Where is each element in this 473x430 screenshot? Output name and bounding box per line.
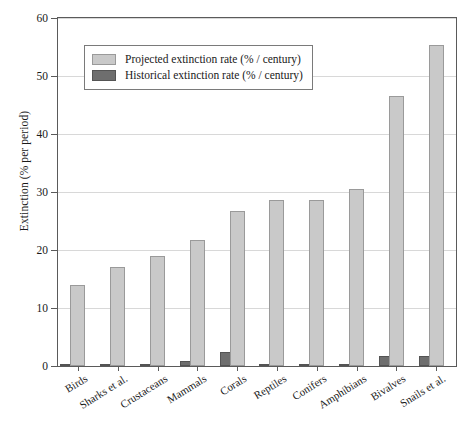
y-axis-tick-label: 30 [37,186,49,198]
bar-projected [349,189,364,366]
y-axis-tick-label: 60 [37,12,49,24]
x-axis-tick [317,366,318,371]
y-axis-tick [51,192,58,193]
y-axis-tick [51,308,58,309]
bar-projected [190,240,205,366]
bar-projected [389,96,404,366]
legend-label-historical: Historical extinction rate (% / century) [125,69,303,81]
legend: Projected extinction rate (% / century) … [84,45,313,90]
x-axis-tick [277,366,278,371]
y-axis-tick-label: 50 [37,70,49,82]
y-axis-tick [51,18,58,19]
x-axis-tick [357,366,358,371]
bar-projected [70,285,85,366]
y-axis-title: Extinction (% per period) [18,61,30,281]
legend-swatch-historical-icon [92,70,116,81]
bar-projected [230,211,245,366]
legend-label-projected: Projected extinction rate (% / century) [125,53,301,65]
x-axis-category-label: Snails et al. [398,372,448,409]
x-axis-category-label: Birds [63,372,90,395]
y-axis-tick [51,250,58,251]
x-axis-tick [158,366,159,371]
y-axis-tick [51,76,58,77]
y-axis-tick [51,134,58,135]
legend-swatch-projected-icon [92,54,116,65]
bar-projected [110,267,125,366]
x-axis-category-label: Reptiles [251,372,288,401]
y-axis-tick-label: 20 [37,244,49,256]
x-axis-category-label: Mammals [165,372,209,405]
legend-item-historical: Historical extinction rate (% / century) [92,67,303,83]
y-axis-tick-label: 40 [37,128,49,140]
legend-item-projected: Projected extinction rate (% / century) [92,51,303,67]
x-axis-tick [436,366,437,371]
bar-projected [150,256,165,366]
bar-projected [429,45,444,366]
x-axis-tick [197,366,198,371]
y-axis-tick [51,366,58,367]
extinction-rate-bar-chart: Extinction (% per period) Projected exti… [0,0,473,430]
x-axis-tick [237,366,238,371]
x-axis-tick [118,366,119,371]
y-axis-tick-label: 10 [37,302,49,314]
x-axis-tick [396,366,397,371]
bar-projected [269,200,284,366]
x-axis-tick [78,366,79,371]
bar-projected [309,200,324,366]
y-axis-tick-label: 0 [42,360,48,372]
x-axis-category-label: Corals [218,372,249,397]
plot-area: Projected extinction rate (% / century) … [57,17,457,367]
